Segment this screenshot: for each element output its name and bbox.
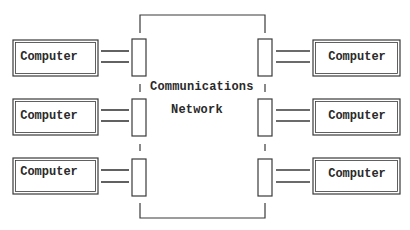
right-computer-label-3: Computer [318, 167, 396, 181]
right-port-3 [258, 159, 272, 196]
right-computer-label-2: Computer [318, 109, 396, 123]
right-port-1 [258, 39, 272, 76]
network-label-line2: Network [171, 103, 223, 117]
network-frame-bottom [140, 203, 265, 218]
right-port-2 [258, 99, 272, 136]
left-computer-label-3: Computer [13, 165, 85, 179]
right-computer-label-1: Computer [318, 50, 396, 64]
left-port-2 [132, 99, 146, 136]
left-port-1 [132, 39, 146, 76]
network-frame-top [140, 15, 265, 33]
left-port-3 [132, 159, 146, 196]
left-computer-label-1: Computer [13, 50, 85, 64]
network-label-line1: Communications [150, 80, 254, 94]
left-computer-label-2: Computer [13, 109, 85, 123]
